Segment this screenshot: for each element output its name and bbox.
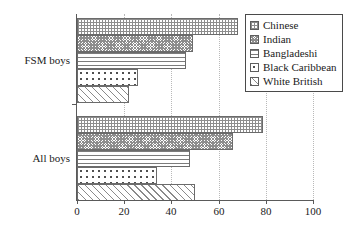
legend-item-indian: Indian <box>250 32 337 46</box>
y-tick-group-divider <box>72 104 77 105</box>
bar-fsm-boys-white-british <box>77 86 129 103</box>
bar-all-boys-bangladeshi <box>77 150 190 167</box>
x-tick-80 <box>266 200 267 204</box>
legend-label-chinese: Chinese <box>263 19 298 31</box>
x-tick-40 <box>171 200 172 204</box>
x-tick-20 <box>124 200 125 204</box>
bar-chart: 0 20 40 60 80 100 FSM boys All boys Chin… <box>0 0 363 237</box>
x-tick-label-80: 80 <box>251 205 281 217</box>
bar-fsm-boys-chinese <box>77 18 238 35</box>
legend-label-indian: Indian <box>263 33 291 45</box>
x-tick-0 <box>77 200 78 204</box>
bar-all-boys-chinese <box>77 116 263 133</box>
legend: Chinese Indian Bangladeshi Black Caribbe… <box>245 14 343 92</box>
x-tick-60 <box>219 200 220 204</box>
bar-all-boys-indian <box>77 133 233 150</box>
legend-label-black-caribbean: Black Caribbean <box>263 61 337 73</box>
legend-item-bangladeshi: Bangladeshi <box>250 46 337 60</box>
bar-fsm-boys-indian <box>77 35 193 52</box>
x-tick-label-20: 20 <box>109 205 139 217</box>
y-tick-label-all-boys: All boys <box>6 152 70 164</box>
legend-swatch-indian-icon <box>250 35 259 44</box>
x-tick-label-100: 100 <box>298 205 328 217</box>
x-tick-label-60: 60 <box>204 205 234 217</box>
y-axis-line <box>76 14 77 200</box>
legend-label-white-british: White British <box>263 75 323 87</box>
bar-all-boys-white-british <box>77 184 195 201</box>
gridline-60 <box>219 14 221 200</box>
x-tick-100 <box>313 200 314 204</box>
legend-swatch-chinese-icon <box>250 21 259 30</box>
x-tick-label-0: 0 <box>62 205 92 217</box>
bar-all-boys-black-caribbean <box>77 167 157 184</box>
legend-swatch-black-caribbean-icon <box>250 63 259 72</box>
legend-swatch-bangladeshi-icon <box>250 49 259 58</box>
legend-item-black-caribbean: Black Caribbean <box>250 60 337 74</box>
x-axis-line <box>76 200 314 201</box>
bar-fsm-boys-bangladeshi <box>77 52 186 69</box>
legend-item-white-british: White British <box>250 74 337 88</box>
y-tick-label-fsm-boys: FSM boys <box>6 54 70 66</box>
x-tick-label-40: 40 <box>156 205 186 217</box>
bar-fsm-boys-black-caribbean <box>77 69 138 86</box>
legend-item-chinese: Chinese <box>250 18 337 32</box>
legend-swatch-white-british-icon <box>250 77 259 86</box>
legend-label-bangladeshi: Bangladeshi <box>263 47 317 59</box>
